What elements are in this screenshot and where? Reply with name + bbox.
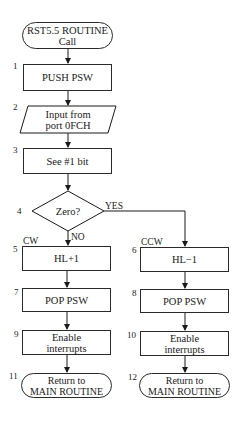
- ccw-label: CCW: [141, 237, 163, 247]
- enable-interrupts-left-box: Enable interrupts: [22, 330, 111, 355]
- step-number-10: 10: [127, 331, 136, 340]
- step-number-2: 2: [13, 103, 18, 112]
- cw-label: CW: [23, 236, 38, 246]
- return-main-left-terminal: Return to MAIN ROUTINE: [21, 373, 112, 398]
- input-port-box: Input from port 0FCH: [24, 106, 112, 133]
- step-number-1: 1: [13, 62, 18, 71]
- rst55-flowchart: RST5.5 ROUTINE Call 1 PUSH PSW 2 Input f…: [0, 0, 243, 422]
- step-number-5: 5: [13, 245, 18, 254]
- pop-psw-left-box: POP PSW: [22, 288, 111, 312]
- step-number-3: 3: [13, 146, 18, 155]
- hl-increment-box: HL+1: [22, 246, 111, 271]
- push-psw-box: PUSH PSW: [23, 64, 112, 91]
- start-terminal: RST5.5 ROUTINE Call: [22, 22, 113, 49]
- no-label: NO: [71, 232, 85, 242]
- step-number-12: 12: [128, 373, 137, 382]
- step-number-9: 9: [14, 330, 19, 339]
- zero-decision: Zero?: [44, 203, 92, 219]
- step-number-7: 7: [14, 288, 19, 297]
- step-number-4: 4: [17, 207, 22, 216]
- see-bit-box: See #1 bit: [23, 148, 112, 174]
- pop-psw-right-box: POP PSW: [140, 289, 229, 313]
- step-number-11: 11: [9, 372, 18, 381]
- step-number-6: 6: [132, 246, 137, 255]
- return-main-right-terminal: Return to MAIN ROUTINE: [139, 373, 230, 398]
- step-number-8: 8: [132, 289, 137, 298]
- hl-decrement-box: HL−1: [140, 247, 229, 272]
- enable-interrupts-right-box: Enable interrupts: [140, 331, 229, 356]
- yes-label: YES: [105, 201, 123, 211]
